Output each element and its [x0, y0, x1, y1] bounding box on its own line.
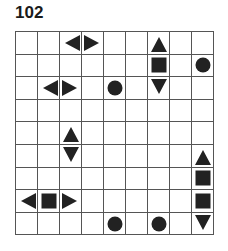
- grid-cell[interactable]: [148, 122, 170, 145]
- ship-end-up-icon: [151, 37, 167, 52]
- ship-middle-icon: [151, 58, 166, 73]
- grid-cell[interactable]: [192, 168, 214, 191]
- grid-cell[interactable]: [60, 190, 82, 213]
- grid-cell[interactable]: [16, 190, 38, 213]
- grid-cell[interactable]: [82, 100, 104, 123]
- grid-cell[interactable]: [38, 55, 60, 78]
- grid-cell[interactable]: [170, 122, 192, 145]
- ship-end-down-icon: [151, 79, 167, 94]
- grid-cell[interactable]: [192, 32, 214, 55]
- grid-cell[interactable]: [192, 55, 214, 78]
- grid-cell[interactable]: [60, 77, 82, 100]
- grid-cell[interactable]: [38, 213, 60, 236]
- grid-cell[interactable]: [60, 32, 82, 55]
- grid-cell[interactable]: [170, 100, 192, 123]
- grid-cell[interactable]: [16, 122, 38, 145]
- grid-cell[interactable]: [192, 213, 214, 236]
- grid-cell[interactable]: [104, 213, 126, 236]
- ship-end-left-icon: [65, 35, 80, 51]
- grid-cell[interactable]: [38, 77, 60, 100]
- grid-cell[interactable]: [104, 32, 126, 55]
- ship-end-down-icon: [195, 215, 211, 230]
- grid-cell[interactable]: [38, 145, 60, 168]
- ship-end-up-icon: [195, 150, 211, 165]
- grid-cell[interactable]: [126, 145, 148, 168]
- grid-cell[interactable]: [126, 122, 148, 145]
- grid-cell[interactable]: [60, 100, 82, 123]
- grid-cell[interactable]: [148, 77, 170, 100]
- grid-cell[interactable]: [16, 168, 38, 191]
- grid-cell[interactable]: [192, 77, 214, 100]
- ship-end-right-icon: [62, 193, 77, 209]
- submarine-icon: [107, 216, 122, 231]
- grid-cell[interactable]: [126, 77, 148, 100]
- grid-cell[interactable]: [82, 77, 104, 100]
- grid-cell[interactable]: [148, 190, 170, 213]
- grid-cell[interactable]: [82, 55, 104, 78]
- grid-cell[interactable]: [170, 168, 192, 191]
- puzzle-number: 102: [15, 3, 43, 23]
- grid-cell[interactable]: [192, 122, 214, 145]
- grid-cell[interactable]: [148, 100, 170, 123]
- ship-end-right-icon: [84, 35, 99, 51]
- grid-cell[interactable]: [16, 32, 38, 55]
- grid-cell[interactable]: [38, 100, 60, 123]
- grid-cell[interactable]: [82, 122, 104, 145]
- grid-cell[interactable]: [16, 55, 38, 78]
- grid-cell[interactable]: [16, 77, 38, 100]
- grid-cell[interactable]: [16, 100, 38, 123]
- grid-cell[interactable]: [126, 32, 148, 55]
- grid-cell[interactable]: [148, 213, 170, 236]
- grid-cell[interactable]: [148, 145, 170, 168]
- grid-cell[interactable]: [82, 145, 104, 168]
- grid-cell[interactable]: [60, 55, 82, 78]
- grid-cell[interactable]: [170, 213, 192, 236]
- grid-cell[interactable]: [82, 190, 104, 213]
- grid-cell[interactable]: [38, 122, 60, 145]
- grid-cell[interactable]: [38, 32, 60, 55]
- grid-cell[interactable]: [16, 213, 38, 236]
- grid-cell[interactable]: [170, 55, 192, 78]
- grid-cell[interactable]: [170, 77, 192, 100]
- grid-cell[interactable]: [126, 55, 148, 78]
- ship-middle-icon: [41, 193, 56, 208]
- submarine-icon: [195, 58, 210, 73]
- grid-cell[interactable]: [126, 168, 148, 191]
- grid-cell[interactable]: [60, 168, 82, 191]
- grid-cell[interactable]: [170, 32, 192, 55]
- grid-cell[interactable]: [192, 100, 214, 123]
- grid-cell[interactable]: [60, 213, 82, 236]
- ship-end-up-icon: [63, 127, 79, 142]
- grid-cell[interactable]: [126, 190, 148, 213]
- grid-cell[interactable]: [104, 77, 126, 100]
- ship-end-right-icon: [62, 80, 77, 96]
- grid-cell[interactable]: [148, 55, 170, 78]
- ship-end-left-icon: [43, 80, 58, 96]
- grid-cell[interactable]: [60, 122, 82, 145]
- grid-cell[interactable]: [38, 168, 60, 191]
- grid-cell[interactable]: [104, 122, 126, 145]
- grid-cell[interactable]: [104, 168, 126, 191]
- grid-cell[interactable]: [148, 32, 170, 55]
- grid-cell[interactable]: [38, 190, 60, 213]
- submarine-icon: [151, 216, 166, 231]
- grid-cell[interactable]: [170, 190, 192, 213]
- grid-cell[interactable]: [82, 32, 104, 55]
- grid-cell[interactable]: [82, 213, 104, 236]
- grid-cell[interactable]: [104, 145, 126, 168]
- grid-cell[interactable]: [104, 55, 126, 78]
- grid-cell[interactable]: [82, 168, 104, 191]
- grid-cell[interactable]: [104, 190, 126, 213]
- grid-cell[interactable]: [170, 145, 192, 168]
- grid-cell[interactable]: [148, 168, 170, 191]
- ship-end-down-icon: [63, 147, 79, 162]
- grid-cell[interactable]: [126, 213, 148, 236]
- puzzle-grid: [15, 31, 214, 235]
- grid-cell[interactable]: [192, 145, 214, 168]
- grid-cell[interactable]: [126, 100, 148, 123]
- grid-cell[interactable]: [192, 190, 214, 213]
- grid-cell[interactable]: [16, 145, 38, 168]
- grid-cell[interactable]: [104, 100, 126, 123]
- ship-end-left-icon: [21, 193, 36, 209]
- grid-cell[interactable]: [60, 145, 82, 168]
